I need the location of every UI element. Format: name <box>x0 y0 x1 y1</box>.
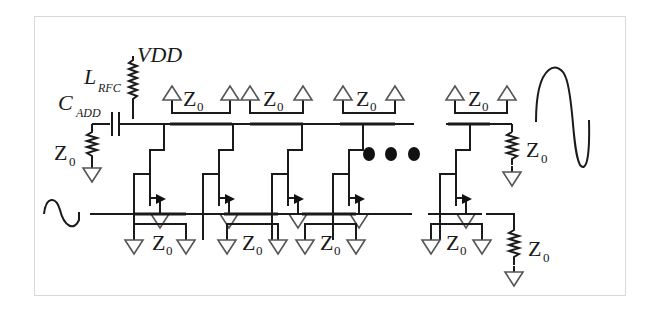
svg-text:Z: Z <box>468 86 481 111</box>
svg-text:0: 0 <box>460 243 467 258</box>
z0-label: Z <box>54 140 67 165</box>
svg-text:Z: Z <box>356 86 369 111</box>
vdd-label: VDD <box>137 42 182 67</box>
svg-text:Z: Z <box>446 230 459 255</box>
svg-text:0: 0 <box>334 243 341 258</box>
svg-text:0: 0 <box>69 154 76 169</box>
input-sine-icon <box>44 200 79 226</box>
svg-text:0: 0 <box>370 99 377 114</box>
svg-text:0: 0 <box>543 250 550 265</box>
l-rfc-label: L <box>83 64 96 89</box>
svg-text:Z: Z <box>528 236 541 261</box>
transistor-stage-4 <box>333 124 368 240</box>
svg-text:Z: Z <box>183 86 196 111</box>
svg-text:Z: Z <box>242 230 255 255</box>
svg-text:Z: Z <box>526 137 539 162</box>
gate-termination <box>505 222 523 286</box>
transistor-stage-n <box>440 124 475 240</box>
ellipsis-dots <box>363 147 420 161</box>
l-rfc-sub: RFC <box>97 81 122 95</box>
svg-text:0: 0 <box>256 243 263 258</box>
svg-text:Z: Z <box>320 230 333 255</box>
svg-text:0: 0 <box>197 99 204 114</box>
svg-text:0: 0 <box>166 243 173 258</box>
svg-text:Z: Z <box>263 86 276 111</box>
top-z0-stubs <box>163 86 516 113</box>
transistor-stage-1 <box>134 124 169 240</box>
output-termination <box>503 124 521 186</box>
transistor-stage-2 <box>203 124 238 240</box>
svg-text:Z: Z <box>152 230 165 255</box>
c-add-capacitor <box>83 112 133 182</box>
c-add-label: C <box>58 90 73 115</box>
transistor-stage-3 <box>272 124 307 240</box>
svg-text:0: 0 <box>541 151 548 166</box>
vdd-inductor <box>129 56 137 119</box>
bottom-z0-stubs <box>125 224 491 254</box>
svg-text:0: 0 <box>277 99 284 114</box>
c-add-sub: ADD <box>75 106 101 120</box>
svg-text:0: 0 <box>482 99 489 114</box>
distributed-amplifier-schematic: VDD L RFC C ADD Z 0 Z0 Z0 Z0 Z0 <box>0 0 651 310</box>
